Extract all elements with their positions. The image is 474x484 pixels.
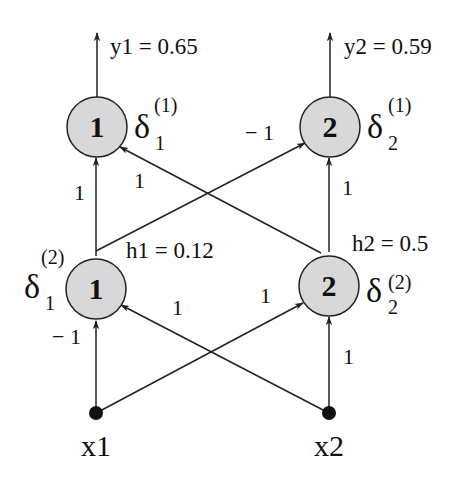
- input-label-x2: x2: [314, 429, 344, 462]
- edge-x1-h2: [100, 303, 303, 411]
- delta-output-2: δ 2 (1): [367, 94, 411, 154]
- output-label-y1: y1 = 0.65: [110, 34, 198, 59]
- weight-x2-h1: 1: [172, 295, 183, 320]
- svg-text:2: 2: [388, 296, 398, 318]
- output-node-2: 2: [300, 97, 360, 157]
- weight-h2-o1: 1: [134, 168, 145, 193]
- node-number: 2: [322, 269, 337, 302]
- input-dot-x1: [89, 406, 103, 420]
- hidden-node-2: 2: [299, 256, 359, 316]
- hidden-label-h2: h2 = 0.5: [352, 231, 428, 256]
- output-label-y2: y2 = 0.59: [344, 34, 432, 59]
- svg-text:(1): (1): [154, 94, 177, 117]
- weight-h2-o2: 1: [342, 175, 353, 200]
- hidden-label-h1: h1 = 0.12: [126, 238, 214, 263]
- svg-text:δ: δ: [367, 108, 383, 145]
- weight-x1-h1: − 1: [52, 324, 81, 349]
- svg-text:δ: δ: [134, 108, 150, 145]
- svg-text:(2): (2): [41, 246, 64, 269]
- node-number: 2: [323, 110, 338, 143]
- input-dot-x2: [322, 406, 336, 420]
- edge-x2-h1: [121, 305, 325, 411]
- network-diagram: 1 2 1 2 y1 = 0.65 y2 = 0.59 δ 1 (1) δ 2 …: [0, 0, 474, 484]
- svg-text:2: 2: [388, 132, 398, 154]
- input-label-x1: x1: [81, 429, 111, 462]
- svg-text:δ: δ: [24, 268, 40, 305]
- hidden-node-1: 1: [66, 259, 126, 319]
- svg-text:(2): (2): [388, 271, 411, 294]
- delta-hidden-2: δ 2 (2): [366, 271, 411, 318]
- delta-hidden-1: δ 1 (2): [24, 246, 64, 314]
- output-node-1: 1: [67, 97, 127, 157]
- svg-text:1: 1: [155, 132, 165, 154]
- svg-text:1: 1: [45, 292, 55, 314]
- weight-x1-h2: 1: [260, 283, 271, 308]
- svg-text:(1): (1): [388, 94, 411, 117]
- edge-h1-o2: [96, 143, 305, 251]
- svg-text:δ: δ: [366, 272, 382, 309]
- node-number: 1: [90, 110, 105, 143]
- delta-output-1: δ 1 (1): [134, 94, 177, 154]
- weight-h1-o2: − 1: [245, 120, 274, 145]
- node-number: 1: [89, 272, 104, 305]
- weight-x2-h2: 1: [343, 344, 354, 369]
- weight-h1-o1: 1: [74, 180, 85, 205]
